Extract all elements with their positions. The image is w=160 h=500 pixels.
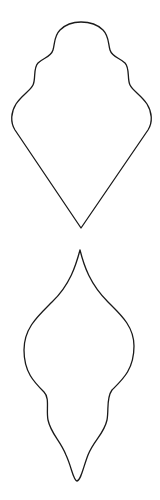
ornament-drop-shape bbox=[24, 250, 134, 481]
template-canvas bbox=[0, 0, 160, 500]
scalloped-diamond-shape bbox=[12, 22, 152, 228]
shapes-svg bbox=[0, 0, 160, 500]
